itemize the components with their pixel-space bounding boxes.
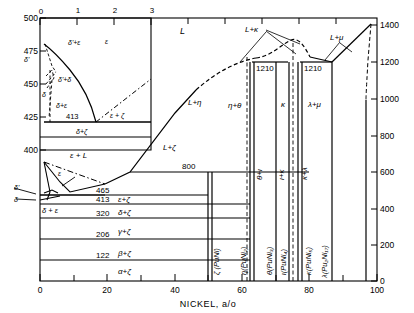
compound-eta-PuNi2: η(PuNi₂) xyxy=(239,246,248,275)
temp-800: 800 xyxy=(182,162,196,171)
inset-ytick-475: 475 xyxy=(24,46,38,56)
label-left-d: δ xyxy=(14,196,18,203)
inset-ytick-500: 500 xyxy=(24,13,38,23)
xtick-100: 100 xyxy=(370,285,384,295)
label-beta-zeta: β+ζ xyxy=(117,249,132,258)
xtick-60: 60 xyxy=(237,285,247,295)
compound-kappa-PuNi5: κ(PuNi₅) xyxy=(304,246,313,275)
compound-theta-PuNi3: θ(PuNi₃) xyxy=(265,246,274,275)
label-L-kappa: L+κ xyxy=(245,25,259,34)
inset-label-eps-zeta: ε + ζ xyxy=(110,112,125,120)
ytick-400: 400 xyxy=(380,204,394,214)
phase-diagram-svg: 0 1 2 3 500 475 450 425 400 1400 1200 10… xyxy=(0,0,414,313)
label-alpha-zeta: α+ζ xyxy=(118,267,132,276)
label-L-zeta: L+ζ xyxy=(163,143,177,152)
inset-label-dprime-eps: δ'+ε xyxy=(68,39,81,46)
compound-lambda-Pu2Ni17: λ(Pu₂Ni₁₇) xyxy=(320,245,329,279)
label-eps-zeta: ε+ζ xyxy=(118,195,131,204)
label-theta-iota: θ+ι xyxy=(255,169,264,180)
label-left-dprime: δ' xyxy=(14,184,20,191)
ytick-600: 600 xyxy=(380,167,394,177)
temp-1210-right: 1210 xyxy=(304,64,322,73)
temp-206: 206 xyxy=(96,230,110,239)
temp-465: 465 xyxy=(96,186,110,195)
figure-background xyxy=(0,0,414,313)
compound-zeta-PuNi: ζ (PuNi) xyxy=(212,248,221,275)
label-delta-zeta: δ+ζ xyxy=(118,208,132,217)
xtick-80: 80 xyxy=(304,285,314,295)
phase-diagram-figure: 0 1 2 3 500 475 450 425 400 1400 1200 10… xyxy=(0,0,414,313)
compound-iota-PuNi4: ι(PuNi₄) xyxy=(279,249,288,275)
inset-xtick-0: 0 xyxy=(39,7,44,16)
ytick-800: 800 xyxy=(380,131,394,141)
inset-xtick-1: 1 xyxy=(76,6,81,15)
inset-ytick-400: 400 xyxy=(24,145,38,155)
label-L-mu: L+μ xyxy=(330,33,344,42)
xtick-0: 0 xyxy=(38,285,43,295)
label-L: L xyxy=(180,26,185,36)
inset-ytick-425: 425 xyxy=(24,112,38,122)
label-eta-theta: η+θ xyxy=(228,101,242,110)
ytick-1400: 1400 xyxy=(380,20,399,30)
label-left-d-eps: δ + ε xyxy=(42,206,59,215)
label-L-eta: L+η xyxy=(188,98,202,107)
temp-320: 320 xyxy=(96,209,110,218)
inset-label-d: δ xyxy=(42,91,46,98)
inset-label-dprime-d: δ'+δ xyxy=(58,76,71,83)
inset-xtick-3: 3 xyxy=(150,6,155,15)
label-eps-L: ε + L xyxy=(70,151,87,160)
label-lambda-mu: λ+μ xyxy=(307,100,322,109)
xtick-20: 20 xyxy=(102,285,112,295)
xtick-40: 40 xyxy=(170,285,180,295)
inset-label-dprime: δ' xyxy=(24,56,30,63)
ytick-200: 200 xyxy=(380,240,394,250)
ytick-1000: 1000 xyxy=(380,94,399,104)
ytick-1200: 1200 xyxy=(380,57,399,67)
x-axis-title: NICKEL, a/o xyxy=(180,299,237,309)
temp-413: 413 xyxy=(96,195,110,204)
label-gamma-zeta: γ+ζ xyxy=(118,227,132,236)
label-iota-kappa: ι+κ xyxy=(277,169,286,180)
inset-ytick-450: 450 xyxy=(24,79,38,89)
inset-label-d-zeta: δ+ζ xyxy=(76,128,88,136)
inset-xtick-2: 2 xyxy=(113,6,118,15)
temp-1210-left: 1210 xyxy=(256,64,274,73)
inset-label-d-eps: δ+ε xyxy=(56,102,68,109)
inset-temp-413: 413 xyxy=(66,112,79,121)
temp-122: 122 xyxy=(96,251,110,260)
label-kappa-lambda: κ+λ xyxy=(300,167,309,180)
